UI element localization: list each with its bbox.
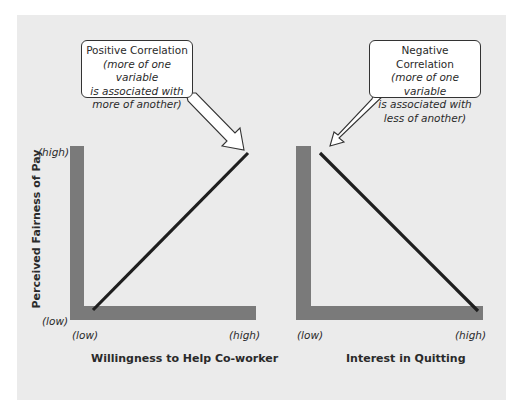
callout-title: Positive Correlation	[86, 44, 188, 58]
callout-description-line: more of another)	[86, 98, 188, 112]
negative-y-axis-bar	[296, 146, 311, 320]
callout-description-line: is associated with	[86, 85, 188, 99]
x-axis-low-label: (low)	[72, 329, 98, 341]
y-axis-high-label: (high)	[38, 146, 69, 158]
callout-description-line: (more of one variable	[86, 58, 188, 85]
positive-x-axis-bar	[70, 306, 256, 320]
positive-trend-line	[93, 153, 248, 310]
negative-axes	[296, 146, 483, 320]
y-axis-title: Perceived Fairness of Pay	[30, 169, 43, 309]
callout-description-line: (more of one variable	[374, 71, 476, 98]
y-axis-low-label: (low)	[42, 315, 68, 327]
negative-correlation-callout: Negative Correlation (more of one variab…	[369, 40, 481, 98]
positive-correlation-callout: Positive Correlation (more of one variab…	[81, 40, 193, 98]
negative-x-axis-bar	[296, 306, 483, 320]
callout-description-line: less of another)	[374, 112, 476, 126]
x-axis-high-label: (high)	[229, 329, 260, 341]
positive-callout-arrow-icon	[186, 93, 244, 150]
negative-trend-line	[320, 153, 478, 311]
x-axis-title: Interest in Quitting	[346, 352, 466, 365]
positive-y-axis-bar	[70, 146, 84, 320]
x-axis-title: Willingness to Help Co-worker	[91, 352, 278, 365]
x-axis-high-label: (high)	[455, 329, 486, 341]
callout-title: Negative Correlation	[374, 44, 476, 71]
x-axis-low-label: (low)	[297, 329, 323, 341]
callout-description-line: is associated with	[374, 98, 476, 112]
